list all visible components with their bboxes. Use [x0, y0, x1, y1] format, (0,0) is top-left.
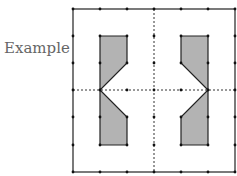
grid-dot	[180, 89, 183, 92]
grid-dot	[99, 62, 102, 65]
grid-dot	[207, 62, 210, 65]
grid-dot	[99, 144, 102, 147]
grid-dot	[180, 35, 183, 38]
grid-dot	[180, 8, 183, 11]
grid-dot	[180, 144, 183, 147]
grid-dot	[234, 8, 237, 11]
grid-dots	[72, 8, 237, 174]
grid-dot	[126, 116, 129, 119]
grid-dot	[72, 144, 75, 147]
grid-dot	[126, 171, 129, 174]
grid-dot	[207, 116, 210, 119]
grid-dot	[126, 35, 129, 38]
grid-dot	[153, 62, 156, 65]
grid-dot	[72, 116, 75, 119]
grid-dot	[99, 116, 102, 119]
grid-dot	[153, 8, 156, 11]
grid-dot	[99, 89, 102, 92]
grid-dot	[207, 8, 210, 11]
grid-dot	[207, 171, 210, 174]
grid-dot	[99, 8, 102, 11]
grid-dot	[234, 62, 237, 65]
grid-dot	[153, 35, 156, 38]
grid-dot	[234, 144, 237, 147]
grid-dot	[207, 35, 210, 38]
grid-dot	[207, 89, 210, 92]
grid-dot	[72, 89, 75, 92]
grid-dot	[207, 144, 210, 147]
grid-dot	[153, 89, 156, 92]
grid-dot	[72, 8, 75, 11]
grid-dot	[72, 171, 75, 174]
grid-dot	[126, 144, 129, 147]
grid-dot	[99, 35, 102, 38]
grid-dot	[180, 62, 183, 65]
grid-dot	[126, 89, 129, 92]
grid-dot	[153, 144, 156, 147]
grid-dot	[153, 116, 156, 119]
grid-dot	[153, 171, 156, 174]
grid-dot	[234, 89, 237, 92]
grid-dot	[72, 62, 75, 65]
grid-dot	[234, 35, 237, 38]
grid-dot	[234, 116, 237, 119]
grid-dot	[72, 35, 75, 38]
grid-dot	[99, 171, 102, 174]
grid-dot	[180, 116, 183, 119]
grid-dot	[180, 171, 183, 174]
grid-dot	[234, 171, 237, 174]
grid-dot	[126, 62, 129, 65]
grid-dot	[126, 8, 129, 11]
symmetry-diagram	[0, 0, 237, 176]
